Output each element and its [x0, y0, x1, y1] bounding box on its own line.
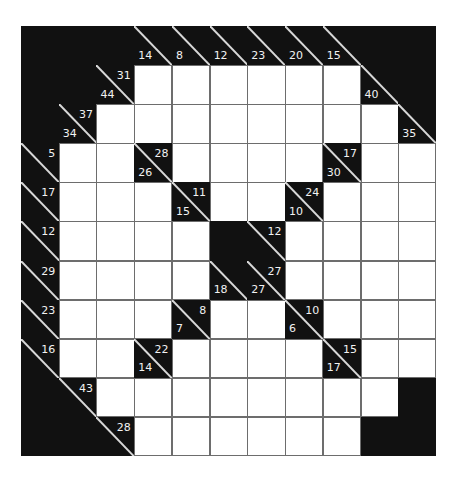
entry-cell[interactable]: [134, 378, 172, 418]
kakuro-board: 1481223201531444037343552826173017111524…: [21, 26, 436, 456]
entry-cell[interactable]: [323, 104, 361, 144]
down-clue: 23: [251, 50, 265, 61]
entry-cell[interactable]: [172, 261, 210, 301]
entry-cell[interactable]: [398, 221, 436, 261]
down-clue: 15: [176, 206, 190, 217]
entry-cell[interactable]: [398, 339, 436, 379]
entry-cell[interactable]: [210, 182, 248, 222]
entry-cell[interactable]: [285, 261, 323, 301]
block-cell: [96, 26, 134, 66]
entry-cell[interactable]: [210, 378, 248, 418]
entry-cell[interactable]: [59, 143, 97, 183]
entry-cell[interactable]: [285, 143, 323, 183]
entry-cell[interactable]: [96, 143, 134, 183]
entry-cell[interactable]: [361, 104, 399, 144]
entry-cell[interactable]: [398, 261, 436, 301]
entry-cell[interactable]: [285, 221, 323, 261]
entry-cell[interactable]: [361, 221, 399, 261]
entry-cell[interactable]: [210, 339, 248, 379]
entry-cell[interactable]: [210, 143, 248, 183]
entry-cell[interactable]: [59, 261, 97, 301]
entry-cell[interactable]: [361, 261, 399, 301]
down-clue: 34: [63, 128, 77, 139]
entry-cell[interactable]: [285, 104, 323, 144]
down-clue: 15: [327, 50, 341, 61]
entry-cell[interactable]: [172, 378, 210, 418]
entry-cell[interactable]: [134, 65, 172, 105]
across-clue: 11: [192, 187, 206, 198]
entry-cell[interactable]: [247, 104, 285, 144]
clue-cell: 12: [210, 26, 248, 66]
entry-cell[interactable]: [59, 182, 97, 222]
entry-cell[interactable]: [323, 182, 361, 222]
entry-cell[interactable]: [323, 417, 361, 457]
across-clue: 28: [154, 148, 168, 159]
entry-cell[interactable]: [172, 65, 210, 105]
entry-cell[interactable]: [134, 104, 172, 144]
entry-cell[interactable]: [96, 378, 134, 418]
entry-cell[interactable]: [96, 104, 134, 144]
entry-cell[interactable]: [361, 339, 399, 379]
entry-cell[interactable]: [247, 182, 285, 222]
entry-cell[interactable]: [172, 339, 210, 379]
entry-cell[interactable]: [398, 143, 436, 183]
down-clue: 6: [289, 323, 296, 334]
entry-cell[interactable]: [323, 65, 361, 105]
entry-cell[interactable]: [59, 221, 97, 261]
across-clue: 27: [268, 266, 282, 277]
entry-cell[interactable]: [398, 300, 436, 340]
entry-cell[interactable]: [210, 104, 248, 144]
entry-cell[interactable]: [323, 261, 361, 301]
block-cell: [398, 26, 436, 66]
entry-cell[interactable]: [323, 221, 361, 261]
entry-cell[interactable]: [59, 300, 97, 340]
entry-cell[interactable]: [361, 143, 399, 183]
entry-cell[interactable]: [96, 182, 134, 222]
entry-cell[interactable]: [323, 378, 361, 418]
entry-cell[interactable]: [361, 182, 399, 222]
entry-cell[interactable]: [361, 300, 399, 340]
entry-cell[interactable]: [247, 339, 285, 379]
clue-cell: 87: [172, 300, 210, 340]
clue-cell: 8: [172, 26, 210, 66]
clue-cell: 12: [247, 221, 285, 261]
entry-cell[interactable]: [96, 261, 134, 301]
entry-cell[interactable]: [210, 417, 248, 457]
entry-cell[interactable]: [247, 417, 285, 457]
entry-cell[interactable]: [134, 182, 172, 222]
entry-cell[interactable]: [285, 339, 323, 379]
entry-cell[interactable]: [323, 300, 361, 340]
entry-cell[interactable]: [285, 417, 323, 457]
entry-cell[interactable]: [285, 65, 323, 105]
clue-cell: 43: [59, 378, 97, 418]
entry-cell[interactable]: [285, 378, 323, 418]
entry-cell[interactable]: [134, 417, 172, 457]
entry-cell[interactable]: [172, 221, 210, 261]
entry-cell[interactable]: [172, 417, 210, 457]
clue-cell: 2410: [285, 182, 323, 222]
entry-cell[interactable]: [172, 104, 210, 144]
entry-cell[interactable]: [398, 182, 436, 222]
entry-cell[interactable]: [134, 261, 172, 301]
entry-cell[interactable]: [210, 65, 248, 105]
entry-cell[interactable]: [361, 378, 399, 418]
block-cell: [59, 26, 97, 66]
entry-cell[interactable]: [134, 300, 172, 340]
entry-cell[interactable]: [247, 300, 285, 340]
block-cell: [210, 221, 248, 261]
entry-cell[interactable]: [172, 143, 210, 183]
entry-cell[interactable]: [96, 300, 134, 340]
entry-cell[interactable]: [59, 339, 97, 379]
entry-cell[interactable]: [247, 378, 285, 418]
entry-cell[interactable]: [96, 339, 134, 379]
entry-cell[interactable]: [210, 300, 248, 340]
clue-cell: 15: [323, 26, 361, 66]
down-clue: 26: [138, 167, 152, 178]
clue-cell: 3734: [59, 104, 97, 144]
entry-cell[interactable]: [247, 65, 285, 105]
entry-cell[interactable]: [96, 221, 134, 261]
entry-cell[interactable]: [247, 143, 285, 183]
clue-cell: 106: [285, 300, 323, 340]
down-clue: 30: [327, 167, 341, 178]
entry-cell[interactable]: [134, 221, 172, 261]
